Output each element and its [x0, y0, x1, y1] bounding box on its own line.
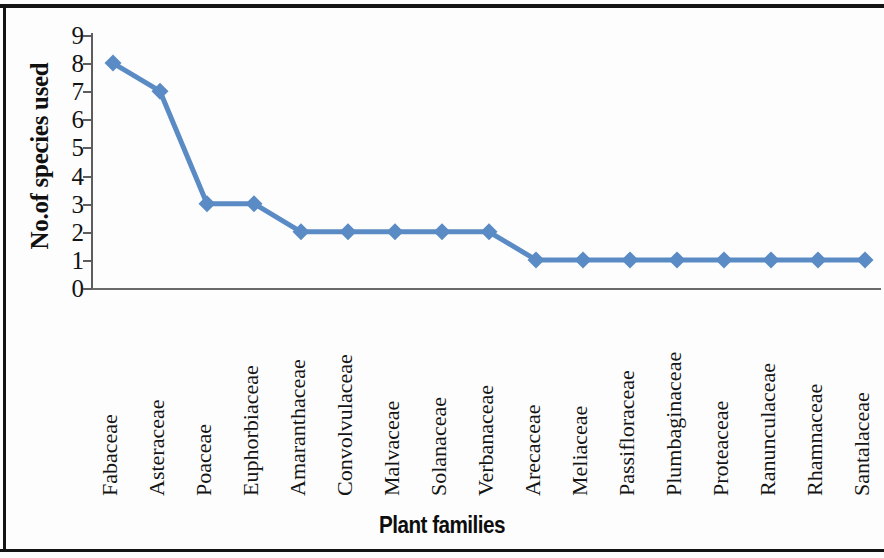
data-point-marker [810, 251, 827, 268]
plot-area [0, 0, 884, 340]
x-axis-tick-label: Rhamnaceae [804, 384, 826, 496]
y-axis-tick-mark [83, 204, 92, 206]
x-axis-tick-label: Arecaceae [522, 404, 544, 496]
chart-figure: No.of species used 9876543210 FabaceaeAs… [0, 0, 884, 558]
y-axis-tick-mark [83, 63, 92, 65]
x-axis-tick-label: Convolvulaceae [334, 354, 356, 496]
y-axis-tick-mark [83, 119, 92, 121]
data-point-marker [763, 251, 780, 268]
x-axis-tick-label: Malvaceae [381, 401, 403, 496]
data-point-marker [434, 223, 451, 240]
data-point-marker [575, 251, 592, 268]
x-axis-title: Plant families [44, 512, 840, 539]
y-axis-tick-mark [83, 91, 92, 93]
y-axis-tick-mark [83, 35, 92, 37]
data-point-marker [669, 251, 686, 268]
data-point-marker [340, 223, 357, 240]
x-axis-tick-label: Ranunculaceae [757, 363, 779, 496]
data-point-marker [857, 251, 874, 268]
x-axis-tick-label: Meliaceae [569, 406, 591, 496]
x-axis-tick-label: Poaceae [193, 424, 215, 496]
x-axis-tick-label: Plumbaginaceae [663, 352, 685, 496]
x-axis-tick-label: Santalaceae [851, 392, 873, 496]
x-axis-tick-label: Euphorbiaceae [240, 365, 262, 496]
data-point-marker [716, 251, 733, 268]
x-axis-tick-label: Passifloraceae [616, 370, 638, 496]
figure-border-bottom [0, 549, 884, 552]
y-axis-tick-mark [83, 288, 92, 290]
y-axis-tick-mark [83, 232, 92, 234]
data-point-marker [387, 223, 404, 240]
x-axis-tick-label: Asteraceae [146, 400, 168, 496]
data-point-marker [622, 251, 639, 268]
y-axis-tick-mark [83, 176, 92, 178]
data-point-marker [199, 195, 216, 212]
x-axis-tick-label: Solanaceae [428, 397, 450, 496]
x-axis-tick-label: Verbanaceae [475, 385, 497, 496]
x-axis-tick-label: Fabaceae [99, 414, 121, 496]
x-axis-tick-labels: FabaceaeAsteraceaePoaceaeEuphorbiaceaeAm… [0, 296, 884, 496]
x-axis-tick-label: Amaranthaceae [287, 359, 309, 496]
y-axis-tick-mark [83, 147, 92, 149]
x-axis-tick-label: Proteaceae [710, 401, 732, 496]
y-axis-tick-mark [83, 260, 92, 262]
